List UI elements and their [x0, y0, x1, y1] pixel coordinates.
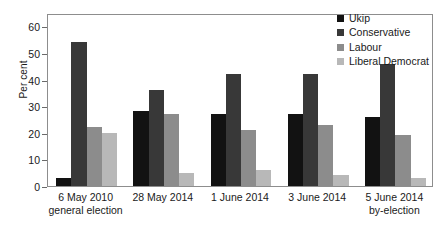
- y-axis-tick-mark: [42, 187, 47, 188]
- y-axis-tick-label: 10: [14, 155, 40, 165]
- legend-label: Ukip: [349, 13, 370, 24]
- legend-swatch-icon: [337, 29, 344, 36]
- y-axis-tick-mark: [42, 54, 47, 55]
- legend-label: Liberal Democrat: [349, 56, 429, 67]
- bar-chart: Per cent 0102030405060 6 May 2010general…: [0, 0, 445, 230]
- legend-item-liberal-democrat[interactable]: Liberal Democrat: [337, 56, 429, 68]
- bar-labour: [87, 127, 102, 186]
- chart-legend: UkipConservativeLabourLiberal Democrat: [337, 12, 429, 68]
- y-axis-tick-mark: [42, 27, 47, 28]
- bar-group: [56, 15, 117, 186]
- bar-group: [211, 15, 272, 186]
- legend-item-labour[interactable]: Labour: [337, 41, 429, 53]
- bar-ukip: [365, 117, 380, 186]
- x-axis-group-label-line: 5 June 2014: [339, 191, 445, 204]
- bar-labour: [395, 135, 410, 186]
- legend-label: Conservative: [349, 27, 410, 38]
- legend-item-conservative[interactable]: Conservative: [337, 27, 429, 39]
- bar-ukip: [211, 114, 226, 186]
- bar-labour: [241, 130, 256, 186]
- legend-item-ukip[interactable]: Ukip: [337, 12, 429, 24]
- bar-conservative: [71, 42, 86, 186]
- legend-label: Labour: [349, 42, 382, 53]
- legend-swatch-icon: [337, 44, 344, 51]
- y-axis-tick-mark: [42, 107, 47, 108]
- y-axis-tick-label: 40: [14, 76, 40, 86]
- bar-labour: [318, 125, 333, 186]
- y-axis-tick-mark: [42, 160, 47, 161]
- y-axis-tick-label: 30: [14, 102, 40, 112]
- bar-liberal-democrat: [179, 173, 194, 186]
- x-axis-group-label: 5 June 2014by-election: [339, 191, 445, 216]
- y-axis-tick-mark: [42, 134, 47, 135]
- bar-ukip: [133, 111, 148, 186]
- bar-conservative: [149, 90, 164, 186]
- y-axis-tick-label: 20: [14, 129, 40, 139]
- bar-conservative: [303, 74, 318, 186]
- bar-ukip: [288, 114, 303, 186]
- bar-ukip: [56, 178, 71, 186]
- y-axis-tick-label: 50: [14, 49, 40, 59]
- bar-labour: [164, 114, 179, 186]
- x-axis-group-label-line: by-election: [339, 204, 445, 217]
- bar-liberal-democrat: [411, 178, 426, 186]
- legend-swatch-icon: [337, 15, 344, 22]
- y-axis-tick-mark: [42, 81, 47, 82]
- x-axis-group-label-line: general election: [31, 204, 141, 217]
- legend-swatch-icon: [337, 58, 344, 65]
- bar-liberal-democrat: [333, 175, 348, 186]
- bar-liberal-democrat: [256, 170, 271, 186]
- bar-liberal-democrat: [102, 133, 117, 186]
- y-axis-tick-label: 60: [14, 22, 40, 32]
- bar-group: [133, 15, 194, 186]
- bar-conservative: [226, 74, 241, 186]
- bar-conservative: [380, 64, 395, 186]
